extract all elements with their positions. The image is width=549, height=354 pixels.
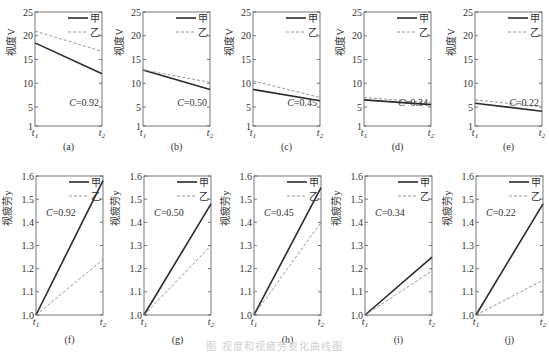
series-line-jia: [143, 70, 210, 89]
x-tick-label: t2: [318, 316, 325, 329]
x-tick-label: t1: [33, 316, 39, 329]
annotation-c-value: C=0.34: [375, 207, 405, 218]
x-tick-label: t2: [207, 127, 214, 140]
y-tick-label: 1.5: [240, 194, 253, 205]
y-tick-label: 1.1: [130, 286, 143, 297]
y-tick-label: 5: [28, 102, 33, 113]
x-tick-label: t1: [251, 316, 257, 329]
panel-c: 1510152025视度Vt1t2(c)甲乙C=0.45: [223, 7, 324, 154]
y-axis-label: 视度V: [223, 28, 235, 56]
annotation-c-value: C=0.92: [69, 97, 99, 108]
y-tick-label: 1.2: [22, 263, 35, 274]
y-axis-label: 视度V: [113, 28, 125, 56]
y-tick-label: 25: [463, 7, 473, 18]
legend-label-yi: 乙: [309, 191, 319, 202]
legend-label-yi: 乙: [91, 191, 101, 202]
y-tick-label: 1.5: [351, 194, 364, 205]
y-tick-label: 1.6: [130, 171, 143, 182]
y-tick-label: 10: [131, 78, 141, 89]
legend-label-yi: 乙: [198, 27, 208, 38]
legend-label-yi: 乙: [530, 27, 540, 38]
legend-label-jia: 甲: [308, 13, 318, 24]
x-tick-label: t1: [361, 127, 367, 140]
x-tick-label: t1: [473, 316, 479, 329]
y-tick-label: 1.5: [462, 194, 475, 205]
x-tick-label: t2: [100, 316, 107, 329]
y-tick-label: 25: [23, 7, 33, 18]
y-tick-label: 10: [241, 78, 251, 89]
legend-label-jia: 甲: [530, 13, 540, 24]
y-tick-label: 10: [463, 78, 473, 89]
y-axis-label: 视疲劳y: [330, 191, 342, 226]
y-tick-label: 5: [468, 102, 473, 113]
panel-label: (a): [63, 141, 74, 153]
panel-d: 1510152025视度Vt1t2(d)甲乙C=0.34: [334, 7, 435, 154]
panel-g: 1.01.11.21.31.41.51.6视疲劳yt1t2(g)甲乙C=0.50: [109, 171, 215, 347]
panel-label: (c): [281, 141, 292, 153]
annotation-c-value: C=0.22: [509, 97, 539, 108]
series-line-yi: [365, 271, 432, 315]
legend-label-jia: 甲: [198, 13, 208, 24]
x-tick-label: t2: [540, 316, 547, 329]
y-tick-label: 1.2: [130, 263, 143, 274]
y-tick-label: 1.3: [462, 240, 475, 251]
y-tick-label: 1.3: [22, 240, 35, 251]
y-tick-label: 1.5: [130, 194, 143, 205]
legend-label-jia: 甲: [309, 177, 319, 188]
legend-label-yi: 乙: [199, 191, 209, 202]
x-tick-label: t2: [539, 127, 546, 140]
annotation-c-value: C=0.50: [177, 97, 207, 108]
panel-label: (b): [171, 141, 183, 153]
y-tick-label: 1.6: [240, 171, 253, 182]
x-tick-label: t1: [32, 127, 38, 140]
y-tick-label: 20: [131, 30, 141, 41]
figure-caption: 图 视度和视疲劳变化曲线图: [0, 338, 549, 353]
y-tick-label: 15: [463, 54, 473, 65]
x-tick-label: t1: [362, 316, 368, 329]
series-line-yi: [254, 222, 321, 315]
y-tick-label: 10: [352, 78, 362, 89]
y-tick-label: 1.6: [22, 171, 35, 182]
series-line-yi: [144, 246, 211, 316]
y-tick-label: 1.2: [240, 263, 253, 274]
chart-figure: 1510152025视度Vt1t2(a)甲乙C=0.921510152025视度…: [0, 0, 549, 354]
series-line-jia: [35, 43, 102, 74]
panel-label: (d): [392, 141, 404, 153]
series-line-yi: [36, 259, 103, 315]
y-tick-label: 1.2: [462, 263, 475, 274]
y-tick-label: 15: [131, 54, 141, 65]
y-axis-label: 视度V: [5, 28, 17, 56]
y-axis-label: 视度V: [445, 28, 457, 56]
y-tick-label: 20: [352, 30, 362, 41]
panel-label: (e): [503, 141, 514, 153]
x-tick-label: t2: [99, 127, 106, 140]
y-tick-label: 15: [23, 54, 33, 65]
y-tick-label: 1.4: [351, 217, 364, 228]
legend-label-yi: 乙: [531, 191, 541, 202]
y-tick-label: 20: [23, 30, 33, 41]
panel-e: 1510152025视度Vt1t2(e)甲乙C=0.22: [445, 7, 546, 154]
x-tick-label: t2: [208, 316, 215, 329]
panel-j: 1.01.11.21.31.41.51.6视疲劳yt1t2(j)甲乙C=0.22: [441, 171, 547, 347]
y-tick-label: 25: [241, 7, 251, 18]
annotation-c-value: C=0.50: [154, 207, 184, 218]
legend-label-jia: 甲: [90, 13, 100, 24]
legend-label-jia: 甲: [419, 13, 429, 24]
y-tick-label: 25: [131, 7, 141, 18]
y-tick-label: 1.1: [22, 286, 35, 297]
legend-label-jia: 甲: [199, 177, 209, 188]
y-tick-label: 1.1: [240, 286, 253, 297]
y-tick-label: 10: [23, 78, 33, 89]
series-line-jia: [365, 257, 432, 315]
legend-label-jia: 甲: [531, 177, 541, 188]
annotation-c-value: C=0.45: [287, 97, 317, 108]
y-tick-label: 1.4: [22, 217, 35, 228]
y-axis-label: 视疲劳y: [441, 191, 453, 226]
y-tick-label: 5: [246, 102, 251, 113]
y-tick-label: 1.3: [240, 240, 253, 251]
y-tick-label: 5: [357, 102, 362, 113]
y-tick-label: 1.4: [462, 217, 475, 228]
panel-b: 1510152025视度Vt1t2(b)甲乙C=0.50: [113, 7, 214, 154]
x-tick-label: t2: [428, 127, 435, 140]
legend-label-yi: 乙: [419, 27, 429, 38]
